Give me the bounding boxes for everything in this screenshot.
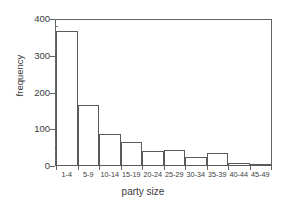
histogram-chart: frequency party size 0100200300400 1-45-…: [0, 0, 286, 209]
y-tick-label: 400: [8, 14, 50, 24]
bar: [78, 105, 100, 166]
bar: [121, 142, 143, 166]
bar: [185, 157, 207, 166]
bar: [142, 151, 164, 166]
bar: [250, 164, 272, 166]
bar: [207, 153, 229, 166]
x-tick-mark: [271, 166, 272, 170]
bar: [56, 31, 78, 166]
bar: [99, 134, 121, 166]
x-axis-title: party size: [0, 186, 286, 197]
x-tick-mark: [56, 166, 57, 170]
x-tick-mark: [185, 166, 186, 170]
y-tick-mark: [50, 56, 55, 57]
y-axis-title: frequency: [14, 36, 25, 116]
y-tick-mark: [50, 166, 55, 167]
y-tick-label: 0: [8, 161, 50, 171]
y-tick-label: 300: [8, 51, 50, 61]
x-tick-mark: [99, 166, 100, 170]
y-tick-mark: [50, 93, 55, 94]
bar: [228, 163, 250, 166]
x-tick-mark: [228, 166, 229, 170]
bar: [164, 150, 186, 166]
y-tick-label: 100: [8, 124, 50, 134]
x-tick-mark: [78, 166, 79, 170]
y-tick-mark: [50, 129, 55, 130]
y-tick-label: 200: [8, 88, 50, 98]
bar-series: [56, 20, 271, 166]
y-tick-mark: [50, 19, 55, 20]
x-tick-mark: [142, 166, 143, 170]
x-tick-label: 45-49: [245, 171, 275, 179]
